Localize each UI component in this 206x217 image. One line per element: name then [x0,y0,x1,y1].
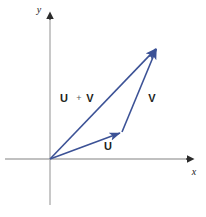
vector-v-label: V [148,92,156,104]
x-axis-label: x [191,166,197,177]
vector-u-plus-v-label-v: V [86,92,94,104]
vector-u-plus-v-operator: + [76,93,81,103]
vector-addition-diagram: x y U V U + V [0,0,206,217]
vector-v-line [122,49,156,132]
vector-u-plus-v-label-u: U [60,92,68,104]
y-axis-label: y [36,4,42,15]
vector-u-label: U [104,140,112,152]
